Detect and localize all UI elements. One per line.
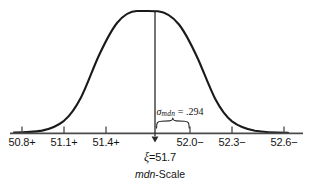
- sigma-value: = .294: [178, 106, 204, 117]
- tick-label-52-6: 52.6−: [271, 136, 298, 148]
- mean-value-label: ξ=51.7: [144, 150, 176, 165]
- sigma-brace-icon: [157, 118, 190, 128]
- tick-label-52-0: 52.0−: [177, 136, 204, 148]
- x-axis-caption-italic: mdn: [135, 168, 155, 180]
- tick-label-51-4: 51.4+: [93, 136, 120, 148]
- sigma-mdn-annotation: σmdn = .294: [157, 106, 204, 118]
- x-axis-caption-rest: -Scale: [155, 168, 185, 180]
- mean-arrowhead-icon: [152, 137, 159, 143]
- normal-curve: [14, 11, 288, 133]
- tick-label-51-1: 51.1+: [51, 136, 78, 148]
- mean-number: =51.7: [149, 151, 176, 163]
- tick-label-50-8: 50.8+: [9, 136, 36, 148]
- sigma-subscript: mdn: [161, 109, 175, 118]
- tick-label-52-3: 52.3−: [219, 136, 246, 148]
- normal-distribution-figure: 50.8+ 51.1+ 51.4+ 52.0− 52.3− 52.6− σmdn…: [0, 0, 314, 188]
- x-axis-caption: mdn-Scale: [135, 168, 185, 180]
